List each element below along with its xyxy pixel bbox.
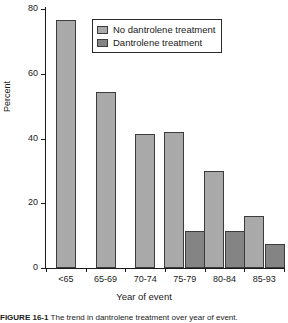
legend-swatch-icon-dantrolene xyxy=(97,39,108,47)
x-tick-mark xyxy=(165,268,166,272)
figure-caption-text: The trend in dantrolene treatment over y… xyxy=(51,313,238,322)
y-tick-label: 40 xyxy=(28,133,38,144)
bar xyxy=(185,231,205,268)
legend-item-dantrolene: Dantrolene treatment xyxy=(97,36,215,49)
y-tick-label: 60 xyxy=(28,68,38,79)
x-tick-label: 70-74 xyxy=(125,274,165,285)
x-tick-mark xyxy=(86,268,87,272)
legend-swatch-icon-no-dantrolene xyxy=(97,26,108,34)
x-tick-mark xyxy=(125,268,126,272)
x-tick-label: 65-69 xyxy=(86,274,126,285)
bar xyxy=(164,132,184,268)
y-tick-mark xyxy=(41,139,45,140)
bar xyxy=(225,231,245,268)
x-tick-mark xyxy=(205,268,206,272)
bar xyxy=(244,216,264,268)
x-tick-mark xyxy=(244,268,245,272)
bar xyxy=(56,20,76,268)
x-tick-label: <65 xyxy=(46,274,86,285)
legend-label-dantrolene: Dantrolene treatment xyxy=(113,37,202,49)
y-tick-label: 20 xyxy=(28,197,38,208)
x-tick-label: 85-93 xyxy=(244,274,284,285)
y-tick-mark xyxy=(41,203,45,204)
bar xyxy=(135,134,155,268)
x-tick-mark xyxy=(284,268,285,272)
y-tick-mark xyxy=(41,74,45,75)
x-axis-title: Year of event xyxy=(0,291,288,303)
figure-caption: FIGURE 16-1 The trend in dantrolene trea… xyxy=(0,313,288,323)
y-tick-mark xyxy=(41,268,45,269)
y-axis-title: Percent xyxy=(2,81,12,112)
figure-caption-prefix: FIGURE 16-1 xyxy=(0,313,48,322)
bar xyxy=(265,244,285,268)
y-tick-label: 80 xyxy=(28,3,38,14)
chart-legend: No dantrolene treatment Dantrolene treat… xyxy=(92,19,222,53)
legend-label-no-dantrolene: No dantrolene treatment xyxy=(113,24,215,36)
legend-item-no-dantrolene: No dantrolene treatment xyxy=(97,23,215,36)
x-tick-label: 75-79 xyxy=(165,274,205,285)
y-tick-label: 0 xyxy=(33,262,38,273)
y-tick-mark xyxy=(41,9,45,10)
x-tick-mark xyxy=(46,268,47,272)
bar xyxy=(204,171,224,268)
x-tick-label: 80-84 xyxy=(205,274,245,285)
bar xyxy=(96,92,116,268)
